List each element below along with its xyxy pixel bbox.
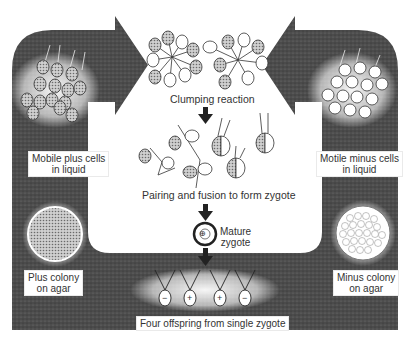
label-line: on agar xyxy=(28,283,79,294)
arrow-down-icon xyxy=(198,107,213,124)
minus-colony-illustration xyxy=(330,200,396,266)
offspring-label: Four offspring from single zygote xyxy=(136,316,289,331)
offspring-mark: − xyxy=(162,292,167,304)
offspring-mark: − xyxy=(242,292,247,304)
minus-colony-label: Minus colony on agar xyxy=(333,270,399,296)
offspring-mark: + xyxy=(217,292,222,304)
mature-zygote-label: Mature zygote xyxy=(220,226,251,248)
offspring-illustration xyxy=(130,268,280,312)
clumping-illustration xyxy=(147,31,268,89)
arrow-down-icon xyxy=(198,204,213,221)
label-line: Mobile plus cells xyxy=(32,153,105,164)
minus-cells-label: Motile minus cells in liquid xyxy=(316,151,403,177)
label-line: Motile minus cells xyxy=(320,153,399,164)
pairing-label: Pairing and fusion to form zygote xyxy=(142,189,296,201)
label-line: in liquid xyxy=(320,164,399,175)
pairing-illustration xyxy=(139,113,274,188)
offspring-mark: + xyxy=(187,292,192,304)
zygote-plus-symbol: ⊕ xyxy=(199,228,206,240)
plus-colony-illustration xyxy=(22,201,88,267)
label-line: Minus colony xyxy=(337,272,395,283)
plus-colony-label: Plus colony on agar xyxy=(24,270,83,296)
label-line: in liquid xyxy=(32,164,105,175)
label-line: on agar xyxy=(337,283,395,294)
label-line: zygote xyxy=(220,237,251,248)
clumping-label: Clumping reaction xyxy=(170,93,255,105)
label-line: Plus colony xyxy=(28,272,79,283)
label-line: Mature xyxy=(220,226,251,237)
plus-cells-label: Mobile plus cells in liquid xyxy=(28,151,109,177)
